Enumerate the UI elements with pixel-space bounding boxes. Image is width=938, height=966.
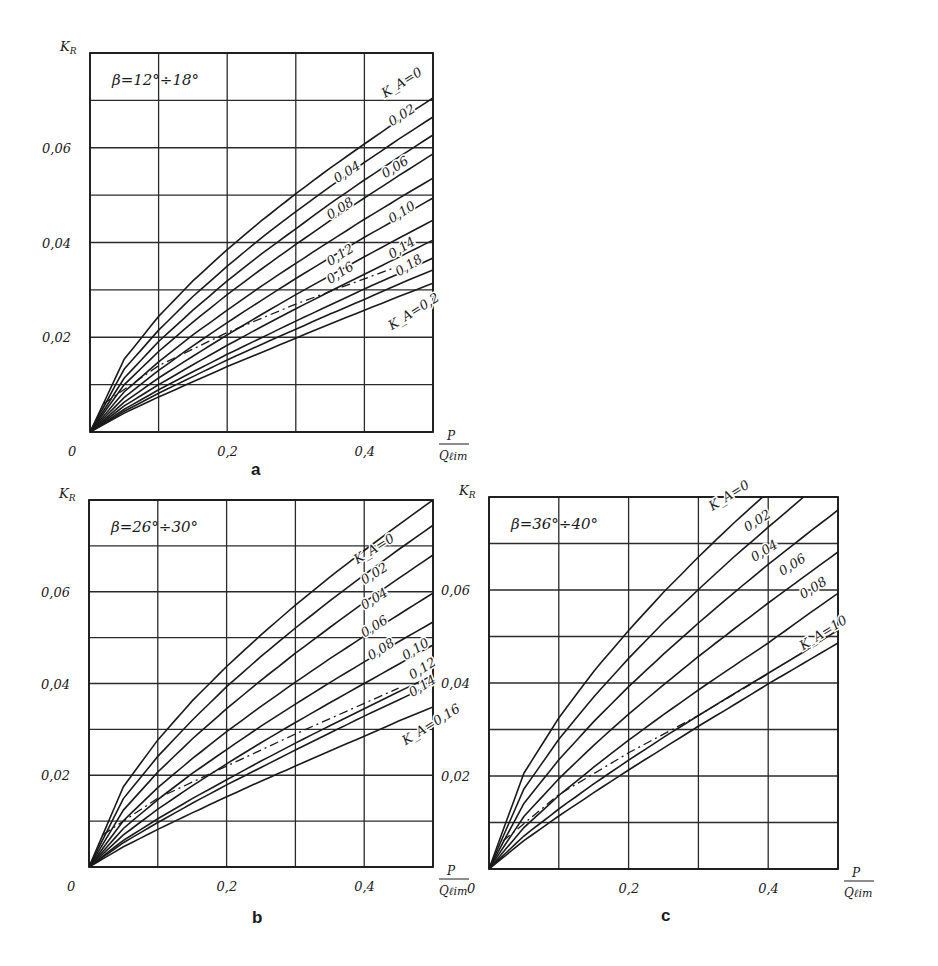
y-axis-label: KR [58,486,76,503]
curve-k-a-0-16 [89,707,433,867]
grid-lines [90,53,433,432]
y-tick-label: 0,04 [42,236,71,251]
curve-k-a-0-2 [90,283,433,432]
y-tick-label: 0,04 [41,677,70,692]
panel-letter-b: b [252,908,262,928]
curve-label: K_A=0 [378,64,425,101]
curve-label: 0,06 [358,612,391,640]
curve-label: 0,02 [385,101,418,129]
panel-title: β=12°÷18° [111,71,199,89]
curve-k-a-0-04 [90,135,433,432]
curve-label: 0,06 [379,153,412,181]
curve-label: 0,04 [331,158,364,186]
curve-label: 0,04 [358,585,391,613]
panel-letter-a: a [251,460,260,480]
y-axis-label: KR [59,39,77,56]
x-tick-label: 0,2 [217,879,238,894]
curve-k-a-10 [489,630,838,869]
plot-area-c: β=36°÷40°KR0,020,040,0600,20,4PQℓimK_A=0… [441,432,874,900]
y-tick-label: 0,02 [41,768,70,783]
x-tick-label: 0 [68,444,76,459]
y-tick-label: 0,02 [441,769,470,784]
grid-lines [489,497,838,869]
curve-label: K_A=0 [705,477,752,514]
x-tick-label: 0,2 [619,881,640,896]
y-tick-label: 0,06 [441,583,470,598]
dash-dot-line [503,674,768,841]
x-axis-label-numerator: P [446,429,456,443]
dash-dot-line [103,688,399,835]
plot-area-a: β=12°÷18°KR0,020,040,0600,20,4PQℓimK_A=0… [42,39,469,463]
curve-k-a-0-10 [89,645,433,867]
curve-label: 0,08 [324,194,357,222]
curve-k-a-0-18 [90,270,433,432]
curve-k-a-0-08 [90,178,433,432]
x-tick-label: 0,2 [217,444,238,459]
y-tick-label: 0,04 [441,676,470,691]
chart-panel-a: β=12°÷18°KR0,020,040,0600,20,4PQℓimK_A=0… [0,0,938,966]
panel-title: β=36°÷40° [510,515,598,533]
curve-label: K_A=0 [350,530,397,567]
x-tick-label: 0 [467,881,475,896]
x-tick-label: 0,4 [758,881,779,896]
panel-letter-c: c [661,906,670,926]
x-tick-label: 0 [67,879,75,894]
x-axis-label-denominator: Qℓim [439,884,467,898]
curve-label: 0,10 [385,198,418,226]
y-tick-label: 0,06 [42,141,71,156]
dash-dot-line [104,266,399,403]
y-tick-label: 0,02 [42,330,71,345]
panel-title: β=26°÷30° [110,518,198,536]
x-tick-label: 0,4 [354,879,375,894]
x-axis-label-numerator: P [446,864,456,878]
x-tick-label: 0,4 [354,444,375,459]
curve-k-a-0-06 [489,552,838,869]
plot-area-b: β=26°÷30°KR0,020,040,0600,20,4PQℓimK_A=0… [41,486,469,898]
x-axis-label-numerator: P [851,866,861,880]
curve-lower [489,643,838,869]
curve-label: 0,08 [365,635,398,663]
grid-lines [89,500,433,867]
y-tick-label: 0,06 [41,585,70,600]
x-axis-label-denominator: Qℓim [844,886,872,900]
curve-label: K_A=10 [796,612,850,653]
x-axis-label-denominator: Qℓim [439,449,467,463]
y-axis-label: KR [458,483,476,500]
